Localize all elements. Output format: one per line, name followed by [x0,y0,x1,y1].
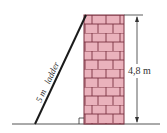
ladder-wall-diagram: 5 m ladder 4,8 m [0,0,167,133]
arrow-down-icon [135,117,139,123]
brick-wall [84,15,124,124]
right-angle-marker [79,118,84,124]
wall-height-label: 4,8 m [128,65,151,76]
ladder-line [35,15,86,124]
arrow-up-icon [135,16,139,22]
